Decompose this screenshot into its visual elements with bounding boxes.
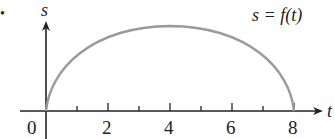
tick-label-0: 0 [27, 117, 37, 138]
y-axis-label: s [41, 0, 48, 20]
tick-label-2: 2 [102, 117, 112, 138]
position-time-graph: • s t 0 2 4 6 8 s = f(t) [0, 0, 335, 139]
function-label: s = f(t) [252, 5, 302, 26]
bullet-marker: • [0, 6, 5, 21]
tick-label-8: 8 [288, 117, 298, 138]
tick-label-4: 4 [164, 117, 174, 138]
curve-s-of-t [46, 26, 294, 111]
x-axis-ticks [77, 103, 294, 111]
x-axis-label: t [327, 101, 333, 121]
tick-label-6: 6 [226, 117, 236, 138]
